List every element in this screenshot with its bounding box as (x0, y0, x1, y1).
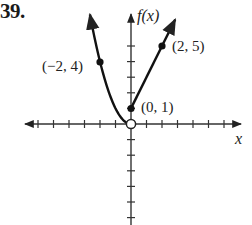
label-0-1: (0, 1) (141, 99, 174, 116)
label-neg2-4: (−2, 4) (42, 58, 83, 75)
x-axis-label: x (234, 130, 242, 147)
right-branch-line (131, 19, 175, 108)
point-neg2-4 (96, 58, 103, 65)
open-point-origin (126, 119, 135, 128)
piecewise-graph: (−2, 4) (2, 5) (0, 1) f(x) x (0, 0, 252, 225)
label-2-5: (2, 5) (172, 38, 205, 55)
left-branch-curve (90, 14, 129, 123)
point-2-5 (158, 42, 165, 49)
point-0-1 (127, 105, 134, 112)
y-axis-label: f(x) (137, 7, 159, 25)
